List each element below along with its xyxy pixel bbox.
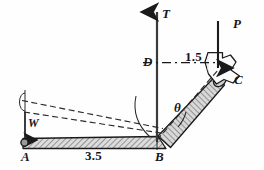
label-point-A: A <box>21 150 30 163</box>
label-point-D: D <box>143 55 152 68</box>
label-force-T: T <box>162 7 170 20</box>
dashed-line-lower-left <box>24 112 164 134</box>
label-point-C: C <box>234 73 243 86</box>
label-dimension-3-5: 3.5 <box>85 149 102 162</box>
figure-canvas <box>0 0 264 170</box>
bar-segment-AB <box>23 137 166 149</box>
label-angle-theta: θ <box>174 101 181 114</box>
label-dimension-1-5: 1.5 <box>185 50 202 63</box>
label-force-P: P <box>233 17 241 30</box>
pin-support-A <box>21 139 28 146</box>
statics-figure: T P D 1.5 C θ W A B 3.5 <box>0 0 264 170</box>
label-force-W: W <box>28 117 39 129</box>
bar-segment-BC <box>158 77 225 148</box>
label-point-B: B <box>155 150 164 163</box>
